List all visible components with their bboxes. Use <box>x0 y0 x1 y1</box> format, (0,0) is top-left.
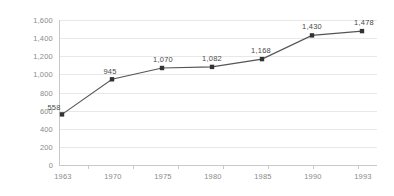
data-point-marker <box>160 66 164 70</box>
data-point-label: 1,478 <box>354 18 374 27</box>
data-point-marker <box>310 33 314 37</box>
series-line-layer <box>0 0 394 196</box>
data-point-marker <box>210 65 214 69</box>
data-point-label: 558 <box>47 103 60 112</box>
data-point-label: 1,430 <box>302 22 322 31</box>
data-point-label: 1,082 <box>202 54 222 63</box>
line-chart: 1,600 1,400 1,200 1,000 800 600 400 200 … <box>0 0 394 196</box>
data-point-label: 1,070 <box>153 55 173 64</box>
data-point-marker <box>110 77 114 81</box>
data-point-marker <box>60 112 64 116</box>
data-point-label: 945 <box>103 67 116 76</box>
data-point-label: 1,168 <box>251 46 271 55</box>
data-point-marker <box>260 57 264 61</box>
data-point-marker <box>360 29 364 33</box>
